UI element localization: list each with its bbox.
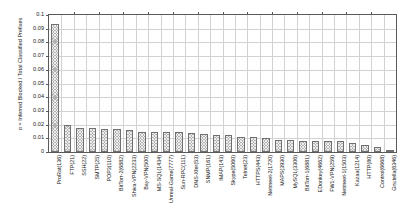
bar xyxy=(163,132,170,152)
y-tick-mark xyxy=(46,152,49,153)
bar xyxy=(324,141,331,152)
x-tick-label: SSH(22) xyxy=(81,155,87,176)
bar xyxy=(64,125,71,152)
x-axis-tick-labels: ProRat(136)FTP(21)SSH(22)SMTP(25)POP3(11… xyxy=(48,155,397,224)
x-tick-label: Telnet(23) xyxy=(242,155,248,179)
bar xyxy=(349,143,356,152)
x-tick-label: Control(6668) xyxy=(379,155,385,188)
bar xyxy=(374,147,381,152)
x-tick-label: EDonkey(4662) xyxy=(317,155,323,192)
y-tick-label: 0.09 xyxy=(0,25,44,31)
bar xyxy=(89,128,96,152)
x-tick-label: Kazaa(1214) xyxy=(354,155,360,186)
x-tick-label: MAPS(3930) xyxy=(279,155,285,186)
bar xyxy=(237,137,244,152)
x-tick-label: DNS-Xfer(53) xyxy=(193,155,199,188)
bar xyxy=(101,129,108,152)
bar xyxy=(188,133,195,152)
y-axis-title: α = Inferred Blocked / Total Classified … xyxy=(14,0,26,150)
y-tick-label: 0.01 xyxy=(0,134,44,140)
chart-figure: α = Inferred Blocked / Total Classified … xyxy=(0,0,406,224)
x-tick-label: SNMP(161) xyxy=(205,155,211,183)
y-tick-label: 0 xyxy=(0,148,44,154)
bar xyxy=(287,140,294,152)
bar xyxy=(76,128,83,152)
bar xyxy=(225,135,232,152)
y-tick-label: 0.03 xyxy=(0,107,44,113)
bar xyxy=(386,150,393,152)
plot-area xyxy=(48,14,397,153)
bar xyxy=(337,141,344,152)
x-tick-label: Skype(5060) xyxy=(230,155,236,186)
bar xyxy=(138,132,145,152)
bar xyxy=(312,141,319,153)
bar xyxy=(299,141,306,153)
y-tick-label: 0.05 xyxy=(0,80,44,86)
bar xyxy=(126,130,133,152)
y-tick-label: 0.06 xyxy=(0,66,44,72)
x-tick-label: Unreal-Game(7777) xyxy=(168,155,174,203)
bar xyxy=(213,135,220,152)
x-tick-label: FW1-VPN(259) xyxy=(329,155,335,192)
bar xyxy=(361,145,368,152)
bar xyxy=(51,24,58,152)
bar xyxy=(200,134,207,152)
x-tick-label: Netmeet-1(1503) xyxy=(341,155,347,196)
y-tick-label: 0.04 xyxy=(0,93,44,99)
x-tick-label: BitTorr-1(6881) xyxy=(304,155,310,191)
x-tick-label: IMAP(143) xyxy=(218,155,224,181)
x-tick-label: ProRat(136) xyxy=(56,155,62,184)
x-tick-label: Gnutella(6346) xyxy=(391,155,397,191)
x-tick-label: Shiva-VPN(2233) xyxy=(131,155,137,197)
x-tick-label: FTP(21) xyxy=(69,155,75,175)
x-tick-label: Sun-RPC(111) xyxy=(180,155,186,190)
x-tick-label: MS-SQL(1434) xyxy=(156,155,162,191)
x-tick-label: POP3(110) xyxy=(106,155,112,182)
x-tick-label: MySQL(3306) xyxy=(292,155,298,189)
bar xyxy=(262,138,269,152)
y-tick-label: 0.07 xyxy=(0,52,44,58)
y-tick-label: 0.1 xyxy=(0,11,44,17)
bar-series xyxy=(49,15,396,152)
x-tick-label: BitTorr-2(6882) xyxy=(118,155,124,191)
bar xyxy=(151,132,158,152)
x-tick-label: HTTPS(443) xyxy=(255,155,261,185)
bar xyxy=(250,137,257,152)
x-tick-label: Netmeet-2(1720) xyxy=(267,155,273,196)
x-tick-label: SMTP(25) xyxy=(94,155,100,180)
bar xyxy=(175,132,182,152)
x-tick-label: Bay-VPN(500) xyxy=(143,155,149,190)
y-tick-label: 0.08 xyxy=(0,38,44,44)
bar xyxy=(113,129,120,152)
x-tick-label: HTTP(80) xyxy=(366,155,372,179)
bar xyxy=(275,140,282,152)
y-tick-label: 0.02 xyxy=(0,121,44,127)
